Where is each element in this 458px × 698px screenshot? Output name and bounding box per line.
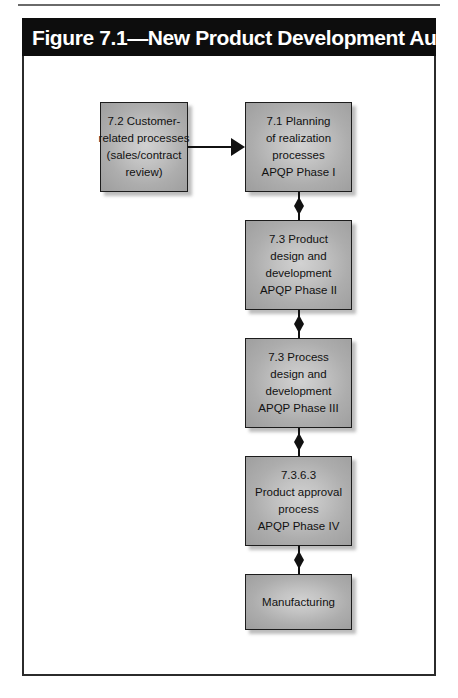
node-text-line: related processes (99, 130, 190, 147)
figure-title: Figure 7.1—New Product Development Audit… (22, 27, 458, 48)
node-text-line: Product approval (255, 484, 342, 501)
node-text-line: development (266, 383, 332, 400)
node-text-line: 7.2 Customer- (108, 113, 181, 130)
flowchart-canvas: 7.2 Customer-related processes(sales/con… (22, 56, 436, 676)
connector-line-customer-to-planning (188, 146, 233, 148)
flowchart-node-product-design-and-development: 7.3 Productdesign anddevelopmentAPQP Pha… (245, 220, 352, 310)
node-text-line: 7.1 Planning (267, 113, 331, 130)
flowchart-node-process-design-and-development: 7.3 Processdesign anddevelopmentAPQP Pha… (245, 338, 352, 428)
node-text-line: of realization (266, 130, 331, 147)
page-top-rule (18, 4, 440, 6)
flowchart-node-manufacturing: Manufacturing (245, 574, 352, 630)
node-text-line: 7.3.6.3 (281, 467, 316, 484)
node-text-line: APQP Phase I (262, 164, 336, 181)
arrowhead-down-icon-product-design-to-process-design (294, 324, 304, 333)
node-text-line: APQP Phase III (258, 400, 338, 417)
node-text-line: 7.3 Product (269, 231, 328, 248)
node-text-line: APQP Phase IV (258, 518, 340, 535)
node-text-line: 7.3 Process (268, 349, 329, 366)
node-text-line: design and (270, 248, 326, 265)
node-text-line: design and (270, 366, 326, 383)
arrowhead-down-icon-product-approval-to-manufacturing (294, 560, 304, 569)
flowchart-node-customer-related-processes: 7.2 Customer-related processes(sales/con… (100, 102, 188, 192)
node-text-line: processes (272, 147, 324, 164)
node-text-line: (sales/contract (107, 147, 182, 164)
arrowhead-up-icon-product-design-to-process-design (294, 315, 304, 324)
arrowhead-up-icon-planning-to-product-design (294, 197, 304, 206)
node-text-line: review) (125, 164, 162, 181)
node-text-line: development (266, 265, 332, 282)
arrowhead-up-icon-product-approval-to-manufacturing (294, 551, 304, 560)
flowchart-node-product-approval-process: 7.3.6.3Product approvalprocessAPQP Phase… (245, 456, 352, 546)
figure-page: Figure 7.1—New Product Development Audit… (0, 0, 458, 698)
node-text-line: APQP Phase II (260, 282, 337, 299)
arrowhead-up-icon-process-design-to-product-approval (294, 433, 304, 442)
figure-title-bar: Figure 7.1—New Product Development Audit… (22, 18, 436, 56)
arrowhead-right-icon-customer-to-planning (231, 138, 245, 156)
node-text-line: process (278, 501, 318, 518)
flowchart-node-planning-of-realization-processes: 7.1 Planningof realizationprocessesAPQP … (245, 102, 352, 192)
arrowhead-down-icon-planning-to-product-design (294, 206, 304, 215)
arrowhead-down-icon-process-design-to-product-approval (294, 442, 304, 451)
node-text-line: Manufacturing (262, 594, 335, 611)
